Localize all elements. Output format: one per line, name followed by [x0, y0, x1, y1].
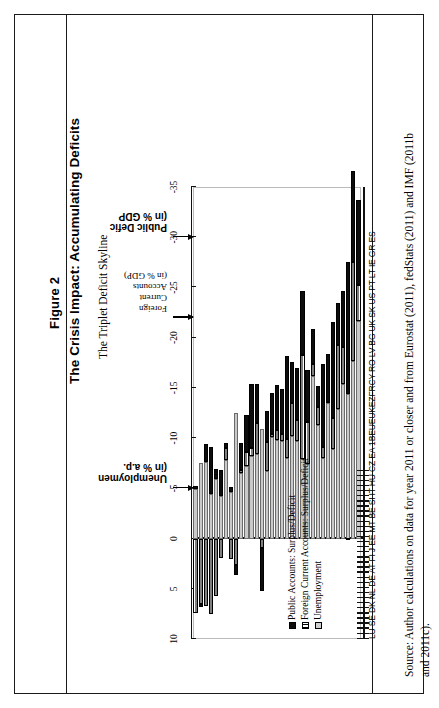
bar-row: [234, 169, 238, 699]
category-axis-labels: LU SE DK NL DE AT FI J EE MT BE SI IT HU…: [367, 187, 377, 639]
bar-segment-public-accounts: [356, 200, 360, 285]
bar-segment-unemployment: [214, 479, 218, 538]
bar-segment-foreign-current-accounts: [351, 262, 355, 360]
value-tick-label: -5: [169, 484, 179, 492]
foreign-current-accounts-callout-line: Current: [140, 293, 168, 303]
bar-segment-unemployment: [341, 384, 345, 539]
bar-segment-public-accounts: [199, 604, 203, 607]
bar-row: [219, 169, 223, 699]
bar-segment-public-accounts: [224, 443, 228, 448]
bar-segment-public-accounts: [239, 443, 243, 470]
value-axis: [191, 187, 192, 639]
bar-segment-public-accounts: [234, 565, 238, 575]
bar-row: [275, 169, 279, 699]
bar-segment-unemployment: [280, 441, 284, 538]
bar-segment-public-accounts: [316, 386, 320, 407]
legend-label: Public Accounts: Surplus/Deficit: [287, 495, 297, 620]
public-deficit-callout-line: (in % GDP: [119, 211, 167, 222]
bar-segment-foreign-current-accounts: [346, 538, 350, 540]
legend-swatch-icon: [302, 622, 309, 629]
bar-segment-foreign-current-accounts: [204, 539, 208, 606]
legend-item: Public Accounts: Surplus/Deficit: [287, 458, 297, 629]
bar-segment-public-accounts: [229, 487, 233, 492]
bar-row: [193, 169, 197, 699]
bar-row: [244, 169, 248, 699]
legend-item: Foreign Current Accounts: Surplus/Defici…: [300, 458, 310, 629]
bar-segment-unemployment: [265, 471, 269, 538]
bar-segment-foreign-current-accounts: [249, 448, 253, 456]
unemployment-callout-arrow: [173, 487, 193, 488]
public-deficit-callout-arrow: [173, 236, 193, 237]
bar-segment-public-accounts: [249, 384, 253, 448]
bar-segment-foreign-current-accounts: [214, 539, 218, 596]
bar-segment-public-accounts: [193, 486, 197, 489]
bar-row: [280, 169, 284, 699]
chart-legend: Public Accounts: Surplus/DeficitForeign …: [287, 458, 326, 629]
value-tick-label: 10: [169, 634, 179, 644]
bar-row: [199, 169, 203, 699]
figure-source: Source: Author calculations on data for …: [387, 29, 439, 708]
bar-row: [346, 169, 350, 699]
bar-segment-unemployment: [326, 403, 330, 539]
figure-frame: Figure 2 The Crisis Impact: Accumulating…: [14, 14, 424, 694]
plot-wrapper: 1050-5-10-15-20-25-30-35 LU SE DK NL DE …: [167, 169, 382, 699]
chart-column: The Triplet Deficit Skyline 1050-5-10-15…: [81, 29, 387, 708]
bar-segment-foreign-current-accounts: [331, 418, 335, 449]
legend-label: Unemployment: [313, 561, 323, 620]
bar-segment-unemployment: [239, 473, 243, 538]
bar-segment-public-accounts: [204, 444, 208, 462]
bar-segment-foreign-current-accounts: [290, 403, 294, 436]
bar-segment-foreign-current-accounts: [300, 355, 304, 459]
bar-segment-public-accounts: [290, 362, 294, 403]
bar-segment-unemployment: [209, 494, 213, 538]
legend-swatch-icon: [289, 622, 296, 629]
bar-segment-foreign-current-accounts: [341, 347, 345, 384]
bar-segment-unemployment: [270, 437, 274, 538]
figure-title: The Crisis Impact: Accumulating Deficits: [67, 118, 82, 384]
bar-segment-foreign-current-accounts: [255, 423, 259, 454]
bar-segment-unemployment: [204, 462, 208, 538]
bar-segment-public-accounts: [275, 385, 279, 430]
bar-segment-public-accounts: [255, 384, 259, 423]
bar-segment-public-accounts: [265, 411, 269, 442]
bar-row: [356, 169, 360, 699]
bar-row: [204, 169, 208, 699]
bar-row: [351, 169, 355, 699]
bar-segment-unemployment: [336, 409, 340, 539]
bar-segment-foreign-current-accounts: [234, 539, 238, 565]
bar-segment-unemployment: [249, 456, 253, 538]
bar-segment-foreign-current-accounts: [270, 434, 274, 437]
bar-segment-foreign-current-accounts: [311, 364, 315, 376]
chart-subtitle: The Triplet Deficit Skyline: [97, 235, 109, 359]
public-deficit-callout-line: Public Defic: [110, 222, 167, 233]
bar-segment-foreign-current-accounts: [193, 539, 197, 613]
value-tick-label: -35: [169, 181, 179, 194]
foreign-current-accounts-callout-line: Foreign: [139, 304, 167, 314]
bar-segment-public-accounts: [219, 470, 223, 496]
legend-item: Unemployment: [313, 458, 323, 629]
figure-header: Figure 2 The Crisis Impact: Accumulating…: [29, 29, 81, 708]
value-tick-label: -20: [169, 331, 179, 344]
bar-segment-foreign-current-accounts: [209, 539, 213, 614]
bar-segment-public-accounts: [331, 322, 335, 418]
bar-segment-unemployment: [193, 489, 197, 538]
bar-segment-foreign-current-accounts: [260, 539, 264, 548]
bar-segment-unemployment: [244, 466, 248, 538]
bar-row: [249, 169, 253, 699]
source-line-2: and 2011c).: [419, 623, 431, 677]
bar-segment-foreign-current-accounts: [295, 420, 299, 441]
bar-segment-public-accounts: [295, 368, 299, 420]
bar-segment-foreign-current-accounts: [316, 407, 320, 425]
bar-segment-public-accounts: [214, 469, 218, 479]
foreign-current-accounts-callout-arrow: [173, 316, 193, 317]
bar-segment-unemployment: [219, 496, 223, 538]
bar-segment-public-accounts: [351, 171, 355, 262]
bar-segment-foreign-current-accounts: [229, 539, 233, 559]
bar-segment-foreign-current-accounts: [199, 539, 203, 604]
bar-segment-public-accounts: [260, 548, 264, 591]
legend-swatch-icon: [315, 622, 322, 629]
bar-segment-public-accounts: [285, 356, 289, 439]
value-tick-label: -30: [169, 231, 179, 244]
bar-segment-public-accounts: [341, 291, 345, 346]
value-tick-label: -15: [169, 382, 179, 395]
